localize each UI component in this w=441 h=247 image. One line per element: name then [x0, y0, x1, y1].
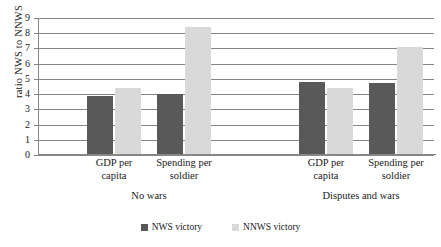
bar: [327, 88, 353, 155]
plot-area: [38, 18, 434, 155]
panel-labels: No warsDisputes and wars: [38, 190, 436, 208]
bar: [397, 47, 423, 155]
bar: [157, 94, 183, 155]
legend-label: NNWS victory: [243, 222, 300, 232]
chart-legend: NWS victoryNNWS victory: [0, 222, 441, 232]
x-axis-line: [38, 154, 436, 155]
bar: [87, 96, 113, 155]
y-axis-ticks: 9876543210: [0, 18, 34, 155]
y-tick-label: 1: [25, 135, 30, 145]
category-label: Spending persoldier: [139, 157, 229, 182]
category-label-line: Spending per: [351, 157, 441, 170]
legend-label: NWS victory: [152, 222, 202, 232]
legend-swatch-icon: [232, 224, 239, 231]
bar-series-container: [38, 18, 434, 155]
gridline: [38, 155, 434, 156]
category-label: Spending persoldier: [351, 157, 441, 182]
y-axis-line: [38, 18, 39, 155]
panel-label: Disputes and wars: [291, 190, 431, 201]
category-label-line: Spending per: [139, 157, 229, 170]
legend-swatch-icon: [141, 224, 148, 231]
bar: [185, 27, 211, 155]
y-tick-label: 2: [25, 120, 30, 130]
bar: [299, 82, 325, 155]
category-labels: GDP percapitaSpending persoldierGDP perc…: [38, 157, 436, 193]
y-tick-label: 6: [25, 59, 30, 69]
legend-item: NNWS victory: [232, 222, 300, 232]
y-tick-label: 7: [25, 43, 30, 53]
y-tick-label: 4: [25, 89, 30, 99]
y-tick-label: 5: [25, 74, 30, 84]
bar: [115, 88, 141, 155]
bar-chart: ratio NWS to NNWS 9876543210 GDP percapi…: [0, 0, 441, 247]
category-label-line: soldier: [139, 170, 229, 183]
bar: [369, 83, 395, 155]
y-tick-label: 0: [25, 150, 30, 160]
category-label-line: soldier: [351, 170, 441, 183]
y-tick-label: 8: [25, 28, 30, 38]
y-tick-label: 9: [25, 13, 30, 23]
panel-label: No wars: [79, 190, 219, 201]
legend-item: NWS victory: [141, 222, 202, 232]
y-tick-label: 3: [25, 104, 30, 114]
